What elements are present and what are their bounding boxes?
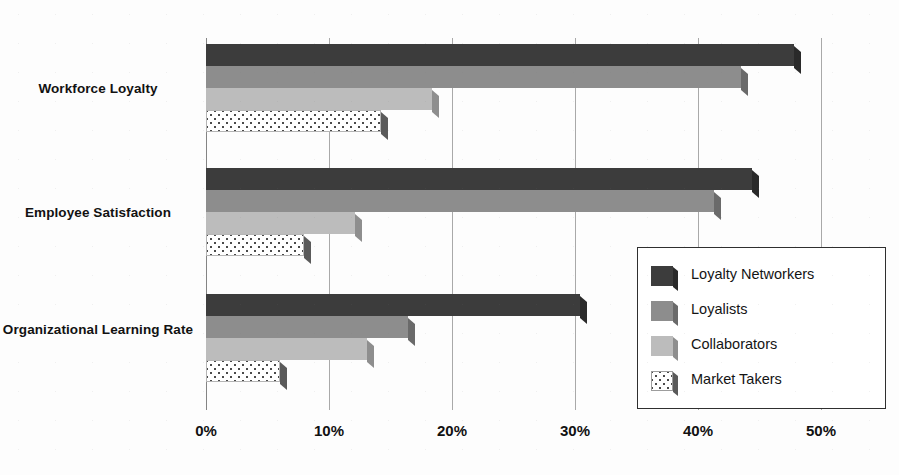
bar-face	[206, 44, 794, 66]
bar-3d-edge	[280, 362, 287, 390]
bar	[206, 110, 381, 132]
x-tick-label: 0%	[171, 422, 241, 439]
bar	[206, 44, 794, 66]
x-tick-label: 30%	[540, 422, 610, 439]
legend-swatch-3d-edge	[673, 302, 678, 326]
legend-label: Market Takers	[691, 371, 782, 387]
bar-3d-edge	[355, 214, 362, 242]
bar	[206, 316, 408, 338]
bar-face	[206, 316, 408, 338]
bar-face	[206, 212, 355, 234]
chart-legend: Loyalty NetworkersLoyalistsCollaborators…	[637, 247, 886, 409]
legend-swatch	[651, 371, 673, 391]
category-label: Employee Satisfaction	[0, 204, 196, 221]
bar-3d-edge	[741, 68, 748, 96]
bar	[206, 190, 714, 212]
bar-face	[206, 168, 752, 190]
gridline-30	[575, 38, 576, 410]
gridline-20	[452, 38, 453, 410]
bar-face	[206, 110, 381, 132]
bar	[206, 212, 355, 234]
bar-face	[206, 88, 432, 110]
bar-face	[206, 294, 580, 316]
bar-3d-edge	[408, 318, 415, 346]
x-tick-label: 10%	[294, 422, 364, 439]
legend-swatch	[651, 336, 673, 356]
category-label: Organizational Learning Rate	[0, 321, 196, 338]
bar-face	[206, 234, 304, 256]
bar	[206, 294, 580, 316]
x-tick-label: 20%	[417, 422, 487, 439]
bar-3d-edge	[432, 90, 439, 118]
bar-face	[206, 190, 714, 212]
legend-label: Loyalty Networkers	[691, 266, 814, 282]
legend-swatch	[651, 266, 673, 286]
bar-face	[206, 360, 280, 382]
bar	[206, 338, 367, 360]
legend-swatch-3d-edge	[673, 337, 678, 361]
bar-3d-edge	[752, 170, 759, 198]
bar-3d-edge	[580, 296, 587, 324]
legend-swatch	[651, 301, 673, 321]
legend-label: Collaborators	[691, 336, 777, 352]
bar	[206, 88, 432, 110]
x-tick-label: 40%	[663, 422, 733, 439]
bar	[206, 360, 280, 382]
x-tick-label: 50%	[786, 422, 856, 439]
bar	[206, 168, 752, 190]
bar-3d-edge	[367, 340, 374, 368]
legend-swatch-3d-edge	[673, 267, 678, 291]
category-label: Workforce Loyalty	[0, 80, 196, 97]
bar-3d-edge	[794, 46, 801, 74]
bar-face	[206, 66, 741, 88]
bar-face	[206, 338, 367, 360]
bar-3d-edge	[381, 112, 388, 140]
legend-label: Loyalists	[691, 301, 747, 317]
bar	[206, 234, 304, 256]
bar	[206, 66, 741, 88]
bar-3d-edge	[304, 236, 311, 264]
bar-chart: Workforce LoyaltyEmployee SatisfactionOr…	[0, 0, 899, 475]
bar-3d-edge	[714, 192, 721, 220]
legend-swatch-3d-edge	[673, 372, 678, 396]
